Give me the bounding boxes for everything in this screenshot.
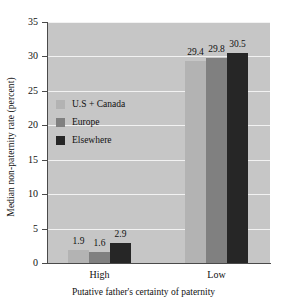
y-tick-mark: [42, 125, 47, 126]
bar-value-label: 2.9: [104, 230, 137, 240]
y-tick-label: 5: [0, 224, 38, 234]
x-axis-line: [47, 263, 271, 264]
y-tick-mark: [42, 229, 47, 230]
y-tick-label: 30: [0, 51, 38, 61]
x-axis-category-label: Low: [177, 269, 257, 280]
y-tick-label: 25: [0, 86, 38, 96]
legend-swatch-icon: [56, 136, 65, 145]
legend-item: U.S + Canada: [56, 95, 166, 113]
bar: [110, 243, 131, 263]
y-tick-label: 35: [0, 17, 38, 27]
legend-swatch-icon: [56, 100, 65, 109]
bar-value-label: 30.5: [221, 40, 254, 50]
y-tick-mark: [42, 22, 47, 23]
gridline: [48, 22, 270, 23]
legend: U.S + CanadaEuropeElsewhere: [56, 95, 166, 149]
y-tick-mark: [42, 194, 47, 195]
bar: [227, 53, 248, 263]
y-tick-mark: [42, 91, 47, 92]
x-axis-title: Putative father's certainty of paternity: [0, 287, 287, 297]
legend-label: U.S + Canada: [72, 99, 125, 109]
y-tick-label: 0: [0, 258, 38, 268]
legend-label: Elsewhere: [72, 135, 112, 145]
bar: [185, 61, 206, 263]
legend-item: Elsewhere: [56, 131, 166, 149]
y-tick-mark: [42, 56, 47, 57]
legend-label: Europe: [72, 117, 99, 127]
bar: [68, 250, 89, 263]
y-tick-mark: [42, 263, 47, 264]
y-tick-mark: [42, 160, 47, 161]
y-tick-label: 20: [0, 120, 38, 130]
bar: [206, 58, 227, 263]
x-axis-category-label: High: [60, 269, 140, 280]
y-axis-line: [47, 22, 48, 264]
legend-swatch-icon: [56, 118, 65, 127]
bar-chart: Median non-paternity rate (percent) 0510…: [0, 0, 287, 304]
legend-item: Europe: [56, 113, 166, 131]
y-tick-label: 10: [0, 189, 38, 199]
bar: [89, 252, 110, 263]
y-tick-label: 15: [0, 155, 38, 165]
